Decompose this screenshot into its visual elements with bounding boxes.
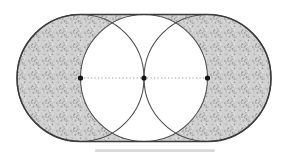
figure-canvas <box>0 0 285 152</box>
center-dot-left <box>78 75 83 80</box>
center-dot-right <box>205 75 210 80</box>
center-dot-middle <box>141 75 146 80</box>
print-artifact-smudge <box>95 149 215 152</box>
center-dots <box>78 75 210 80</box>
geometry-diagram <box>0 0 285 152</box>
